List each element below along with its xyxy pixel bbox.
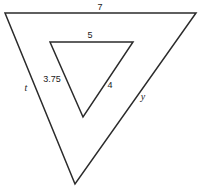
label-inner-top-side: 5 <box>87 31 92 40</box>
outer-triangle <box>5 13 196 184</box>
label-outer-left-side: t <box>25 83 28 93</box>
label-outer-top-side: 7 <box>97 3 102 12</box>
label-inner-left-side: 3.75 <box>43 75 61 84</box>
geometry-figure: 7 t y 5 3.75 4 <box>0 0 202 188</box>
label-inner-right-side: 4 <box>107 81 112 90</box>
figure-canvas <box>0 0 202 188</box>
label-outer-right-side: y <box>141 92 145 102</box>
